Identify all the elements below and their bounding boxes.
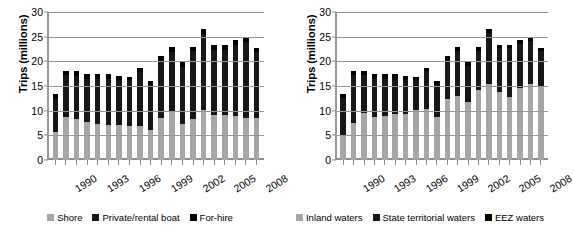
stacked-bar: [137, 68, 143, 160]
y-tick-mark: [332, 36, 336, 37]
bar-segment-state-territorial-waters: [434, 85, 440, 117]
y-tick-mark: [332, 135, 336, 136]
y-tick-label: 20: [31, 55, 43, 67]
bar-segment-shore: [243, 118, 249, 160]
stacked-bar: [63, 71, 69, 160]
bar-segment-shore: [222, 115, 228, 160]
y-tick-mark: [44, 86, 48, 87]
stacked-bar: [190, 47, 196, 160]
chart-panel-left: Trips (millions) 19901993199619992002200…: [0, 0, 280, 229]
legend-label: For-hire: [200, 212, 233, 223]
stacked-bar: [486, 29, 492, 160]
bar-segment-private-rental-boat: [233, 45, 239, 116]
stacked-bar: [372, 74, 378, 160]
bar-segment-inland-waters: [497, 92, 503, 160]
bar-segment-private-rental-boat: [127, 80, 133, 126]
stacked-bar: [116, 76, 122, 160]
y-tick-mark: [332, 12, 336, 13]
x-tick-label: 1999: [168, 172, 194, 195]
x-tick-label: 2005: [517, 172, 543, 195]
gridline: [48, 135, 264, 136]
y-tick-mark: [44, 110, 48, 111]
bar-segment-private-rental-boat: [180, 67, 186, 124]
bar-segment-state-territorial-waters: [455, 51, 461, 96]
bar-segment-state-territorial-waters: [538, 51, 544, 87]
bar-segment-shore: [158, 118, 164, 160]
stacked-bar: [424, 68, 430, 160]
bar-segment-private-rental-boat: [201, 34, 207, 110]
bar-segment-inland-waters: [486, 84, 492, 160]
gridline: [48, 12, 264, 13]
y-tick-mark: [332, 86, 336, 87]
bar-segment-state-territorial-waters: [340, 98, 346, 135]
bar-segment-state-territorial-waters: [486, 33, 492, 84]
bar-segment-shore: [211, 115, 217, 160]
bar-segment-shore: [137, 126, 143, 160]
bar-segment-state-territorial-waters: [476, 51, 482, 90]
bar-segment-private-rental-boat: [137, 72, 143, 126]
y-tick-label: 20: [319, 55, 331, 67]
bar-segment-inland-waters: [517, 88, 523, 160]
bar-segment-state-territorial-waters: [413, 79, 419, 110]
bar-segment-shore: [84, 122, 90, 160]
x-tick-labels-left: 1990199319961999200220052008: [48, 160, 264, 200]
x-tick-label: 1996: [423, 172, 449, 195]
gridline: [336, 12, 548, 13]
legend-swatch-icon: [47, 214, 54, 221]
y-tick-mark: [332, 110, 336, 111]
bar-segment-shore: [95, 124, 101, 161]
bar-segment-private-rental-boat: [148, 86, 154, 131]
stacked-bar: [517, 40, 523, 160]
stacked-bar: [158, 56, 164, 160]
bar-segment-inland-waters: [507, 97, 513, 160]
stacked-bar: [169, 47, 175, 160]
bar-segment-state-territorial-waters: [465, 66, 471, 103]
bar-segment-inland-waters: [403, 114, 409, 160]
bar-segment-shore: [127, 126, 133, 160]
y-tick-label: 15: [31, 80, 43, 92]
y-tick-label: 10: [319, 105, 331, 117]
bar-segment-state-territorial-waters: [351, 75, 357, 123]
legend-item: Shore: [47, 212, 82, 223]
stacked-bar: [254, 48, 260, 160]
legend-label: State territorial waters: [383, 212, 475, 223]
stacked-bar: [201, 29, 207, 160]
y-tick-mark: [332, 160, 336, 161]
legend-item: State territorial waters: [373, 212, 475, 223]
chart-panel-right: Trips (millions) 19901993199619992002200…: [280, 0, 560, 229]
bar-segment-private-rental-boat: [158, 61, 164, 118]
bar-segment-shore: [63, 117, 69, 160]
stacked-bar: [403, 76, 409, 160]
y-tick-mark: [44, 160, 48, 161]
bar-segment-shore: [106, 125, 112, 160]
legend-item: Inland waters: [296, 212, 363, 223]
x-tick-label: 1990: [361, 172, 387, 195]
x-tick-label: 1996: [136, 172, 162, 195]
bar-segment-shore: [233, 116, 239, 160]
bar-segment-state-territorial-waters: [403, 80, 409, 114]
stacked-bar: [538, 48, 544, 160]
gridline: [336, 86, 548, 87]
legend-right: Inland watersState territorial watersEEZ…: [280, 212, 560, 223]
stacked-bar: [84, 74, 90, 160]
y-tick-label: 0: [325, 154, 331, 166]
x-tick-label: 1999: [454, 172, 480, 195]
bar-segment-inland-waters: [392, 114, 398, 160]
bar-segment-inland-waters: [445, 99, 451, 160]
stacked-bar: [455, 47, 461, 160]
bar-segment-shore: [74, 119, 80, 160]
stacked-bar: [243, 37, 249, 160]
bar-segment-inland-waters: [455, 96, 461, 160]
bar-segment-inland-waters: [382, 116, 388, 160]
legend-left: ShorePrivate/rental boatFor-hire: [0, 212, 280, 223]
gridline: [48, 111, 264, 112]
gridline: [336, 111, 548, 112]
legend-label: EEZ waters: [495, 212, 544, 223]
bar-segment-shore: [190, 119, 196, 160]
stacked-bar: [476, 47, 482, 160]
x-tick-label: 2005: [232, 172, 258, 195]
legend-swatch-icon: [190, 214, 197, 221]
bar-segment-inland-waters: [351, 123, 357, 160]
stacked-bar: [148, 81, 154, 160]
